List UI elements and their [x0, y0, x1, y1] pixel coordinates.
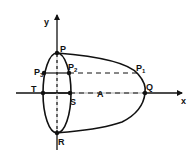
- label-p3: P3: [34, 67, 44, 78]
- point-t: [41, 91, 45, 95]
- y-axis-label: y: [44, 17, 49, 27]
- label-q: Q: [146, 82, 153, 92]
- point-p: [55, 51, 59, 55]
- label-a: A: [97, 89, 104, 99]
- point-r: [55, 131, 59, 135]
- label-s: S: [70, 97, 76, 107]
- label-p2: P2: [68, 62, 78, 73]
- x-axis-label: x: [181, 96, 186, 106]
- label-t: T: [31, 84, 37, 94]
- geometry-diagram: y x P R Q T S A P1 P2 P3: [0, 0, 193, 160]
- label-p: P: [60, 44, 66, 54]
- diagram-canvas: y x P R Q T S A P1 P2 P3: [0, 0, 193, 160]
- point-s: [68, 91, 72, 95]
- label-p1: P1: [136, 63, 146, 74]
- label-r: R: [58, 137, 65, 147]
